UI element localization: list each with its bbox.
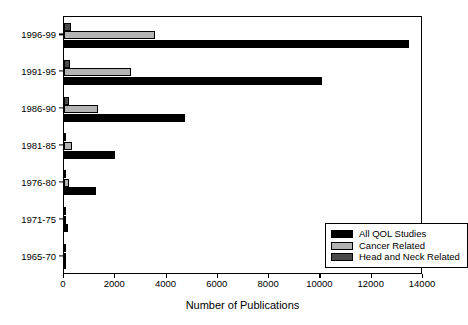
- bar: [64, 97, 69, 105]
- y-axis-tick-label: 1971-75: [0, 213, 56, 224]
- bar: [64, 77, 322, 85]
- bar: [64, 253, 66, 261]
- x-axis-tick-label: 2000: [104, 278, 125, 289]
- plot-area: All QOL StudiesCancer RelatedHead and Ne…: [63, 16, 422, 274]
- bar-group: [64, 164, 421, 201]
- x-axis-tick-label: 12000: [357, 278, 383, 289]
- legend-label: Cancer Related: [359, 241, 425, 251]
- bar-group: [64, 91, 421, 128]
- bar: [64, 68, 131, 76]
- legend-swatch: [331, 253, 353, 261]
- bar: [64, 170, 66, 178]
- legend-item: All QOL Studies: [331, 229, 460, 240]
- bar: [64, 216, 66, 224]
- bar: [64, 261, 66, 269]
- x-axis-tick-label: 6000: [206, 278, 227, 289]
- legend-item: Cancer Related: [331, 240, 460, 251]
- bar: [64, 187, 96, 195]
- y-axis-tick-label: 1976-80: [0, 176, 56, 187]
- x-axis-title: Number of Publications: [63, 299, 422, 311]
- x-axis-tick-label: 0: [60, 278, 65, 289]
- x-axis-tick-label: 10000: [306, 278, 332, 289]
- x-axis-tick-mark: [63, 274, 64, 278]
- bar: [64, 40, 409, 48]
- bar: [64, 142, 72, 150]
- x-axis: 02000400060008000100001200014000: [63, 274, 422, 298]
- bar: [64, 224, 68, 232]
- x-axis-tick-mark: [268, 274, 269, 278]
- x-axis-tick-label: 8000: [258, 278, 279, 289]
- bar: [64, 105, 98, 113]
- x-axis-tick-label: 4000: [155, 278, 176, 289]
- bar: [64, 207, 66, 215]
- legend-label: Head and Neck Related: [359, 252, 460, 262]
- y-axis-tick-label: 1981-85: [0, 140, 56, 151]
- x-axis-tick-mark: [319, 274, 320, 278]
- chart-legend: All QOL StudiesCancer RelatedHead and Ne…: [325, 223, 468, 268]
- bar: [64, 60, 70, 68]
- bar-group: [64, 17, 421, 54]
- y-axis-tick-label: 1965-70: [0, 250, 56, 261]
- x-axis-tick-mark: [371, 274, 372, 278]
- x-axis-tick-mark: [166, 274, 167, 278]
- legend-swatch: [331, 242, 353, 250]
- bar: [64, 179, 69, 187]
- y-axis-tick-label: 1991-95: [0, 66, 56, 77]
- legend-label: All QOL Studies: [359, 229, 426, 239]
- bar: [64, 244, 66, 252]
- legend-swatch: [331, 230, 353, 238]
- bar-group: [64, 54, 421, 91]
- x-axis-tick-label: 14000: [409, 278, 435, 289]
- x-axis-tick-mark: [422, 274, 423, 278]
- bar: [64, 151, 115, 159]
- y-axis-tick-label: 1996-99: [0, 29, 56, 40]
- bar: [64, 23, 71, 31]
- y-axis-tick-label: 1986-90: [0, 103, 56, 114]
- legend-item: Head and Neck Related: [331, 252, 460, 263]
- bar: [64, 114, 185, 122]
- bar: [64, 31, 155, 39]
- x-axis-tick-mark: [114, 274, 115, 278]
- bar-group: [64, 128, 421, 165]
- bar: [64, 133, 66, 141]
- x-axis-tick-mark: [217, 274, 218, 278]
